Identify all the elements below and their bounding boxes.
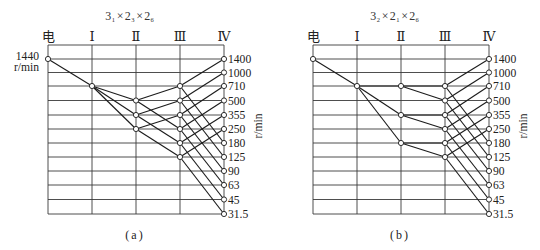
speed-node-circle-icon: [486, 112, 491, 117]
speed-node-circle-icon: [221, 182, 226, 187]
speed-label: 45: [493, 194, 505, 207]
speed-node-circle-icon: [133, 112, 138, 117]
speed-label: 710: [228, 80, 246, 93]
grid: [313, 45, 489, 214]
speed-node-circle-icon: [486, 182, 491, 187]
speed-node-circle-icon: [221, 140, 226, 145]
speed-label: 63: [228, 179, 240, 192]
diagram-a: 31×23×26 电ⅠⅡⅢⅣ14001000710500355250180125…: [0, 0, 265, 250]
speed-label: 180: [228, 137, 246, 150]
speed-label: 45: [228, 194, 240, 207]
speed-label: 90: [493, 165, 505, 178]
speed-node-circle-icon: [221, 70, 226, 75]
speed-label: 125: [228, 151, 246, 164]
unit-label-vertical: r/min: [252, 113, 265, 138]
speed-label: 710: [493, 80, 511, 93]
transmission-line: [401, 86, 445, 101]
speed-label: 1400: [228, 53, 251, 66]
diagram-b: 32×21×26 电ⅠⅡⅢⅣ14001000710500355250180125…: [265, 0, 540, 250]
speed-node-circle-icon: [442, 112, 447, 117]
transmission-line: [401, 143, 445, 157]
shaft-label: Ⅱ: [397, 29, 406, 44]
shaft-label: Ⅲ: [174, 29, 187, 44]
speed-node-circle-icon: [486, 98, 491, 103]
speed-node-circle-icon: [221, 211, 226, 216]
speed-label: 63: [493, 179, 505, 192]
speed-node-circle-icon: [486, 83, 491, 88]
speed-node-circle-icon: [177, 140, 182, 145]
speed-node-circle-icon: [398, 140, 403, 145]
speed-node-circle-icon: [221, 98, 226, 103]
speed-node-circle-icon: [177, 83, 182, 88]
shaft-label: Ⅲ: [439, 29, 452, 44]
transmission-line: [136, 86, 180, 101]
speed-diagram-canvas: 电ⅠⅡⅢⅣ1400100071050035525018012590634531.…: [0, 0, 265, 250]
speed-node-circle-icon: [177, 112, 182, 117]
speed-node-circle-icon: [177, 98, 182, 103]
speed-node-circle-icon: [486, 168, 491, 173]
speed-label: 355: [228, 109, 246, 122]
speed-node-circle-icon: [133, 126, 138, 131]
speed-node-circle-icon: [45, 56, 50, 61]
diagram-caption: (a): [125, 228, 144, 242]
speed-node-circle-icon: [442, 140, 447, 145]
speed-label: 31.5: [228, 208, 248, 221]
speed-label: 1000: [493, 67, 516, 80]
shaft-label: Ⅳ: [218, 29, 232, 44]
transmission-line: [180, 73, 224, 101]
speed-node-circle-icon: [442, 154, 447, 159]
speed-node-circle-icon: [221, 154, 226, 159]
transmission-line: [180, 157, 224, 214]
speed-label: 90: [228, 165, 240, 178]
transmission-line: [92, 86, 136, 129]
motor-speed-unit: r/min: [14, 61, 39, 74]
transmission-line: [136, 115, 180, 129]
speed-node-circle-icon: [442, 126, 447, 131]
speed-node-circle-icon: [486, 56, 491, 61]
speed-node-circle-icon: [177, 154, 182, 159]
speed-label: 1000: [228, 67, 251, 80]
speed-node-circle-icon: [486, 140, 491, 145]
speed-node-circle-icon: [442, 98, 447, 103]
speed-node-circle-icon: [398, 112, 403, 117]
shaft-label: Ⅰ: [89, 29, 94, 44]
speed-label: 500: [228, 95, 246, 108]
transmission-line: [136, 101, 180, 116]
transmission-line: [445, 157, 489, 214]
speed-node-circle-icon: [89, 83, 94, 88]
speed-node-circle-icon: [177, 126, 182, 131]
shaft-label: Ⅱ: [132, 29, 141, 44]
speed-diagram-canvas: 电ⅠⅡⅢⅣ1400100071050035525018012590634531.…: [265, 0, 540, 250]
speed-node-circle-icon: [486, 211, 491, 216]
speed-node-circle-icon: [486, 126, 491, 131]
speed-label: 125: [493, 151, 511, 164]
speed-label: 180: [493, 137, 511, 150]
speed-label: 250: [228, 123, 246, 136]
unit-label-vertical: r/min: [517, 113, 530, 138]
transmission-line: [357, 86, 401, 143]
speed-node-circle-icon: [221, 83, 226, 88]
shaft-label: 电: [42, 29, 55, 44]
speed-node-circle-icon: [398, 83, 403, 88]
speed-node-circle-icon: [221, 197, 226, 202]
diagram-caption: (b): [390, 228, 410, 242]
shaft-label: Ⅰ: [354, 29, 359, 44]
speed-node-circle-icon: [310, 56, 315, 61]
speed-label: 31.5: [493, 208, 513, 221]
speed-node-circle-icon: [442, 83, 447, 88]
speed-node-circle-icon: [221, 112, 226, 117]
speed-node-circle-icon: [133, 98, 138, 103]
speed-node-circle-icon: [221, 126, 226, 131]
transmission-line: [401, 115, 445, 129]
speed-label: 355: [493, 109, 511, 122]
speed-node-circle-icon: [486, 70, 491, 75]
speed-node-circle-icon: [486, 154, 491, 159]
speed-node-circle-icon: [221, 56, 226, 61]
speed-label: 250: [493, 123, 511, 136]
transmission-line: [445, 73, 489, 101]
speed-node-circle-icon: [486, 197, 491, 202]
shaft-label: Ⅳ: [483, 29, 497, 44]
speed-label: 1400: [493, 53, 516, 66]
speed-node-circle-icon: [221, 168, 226, 173]
speed-label: 500: [493, 95, 511, 108]
